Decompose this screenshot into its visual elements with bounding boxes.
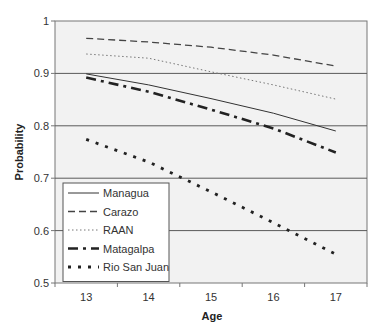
y-tick-label: 0.6 (34, 225, 49, 237)
y-axis-title: Probability (13, 123, 25, 181)
legend-label: RAAN (103, 224, 134, 236)
y-tick-label: 0.5 (34, 277, 49, 289)
x-tick-label: 16 (267, 291, 279, 303)
legend: ManaguaCarazoRAANMatagalpaRio San Juan (63, 183, 169, 282)
x-tick-label: 13 (80, 291, 92, 303)
chart: 0.50.60.70.80.91 1314151617 ManaguaCaraz… (0, 0, 384, 331)
legend-label: Rio San Juan (103, 261, 169, 273)
line-chart: 0.50.60.70.80.91 1314151617 ManaguaCaraz… (0, 0, 384, 331)
y-tick-label: 1 (43, 15, 49, 27)
x-axis-title: Age (202, 310, 223, 322)
y-tick-label: 0.7 (34, 172, 49, 184)
y-tick-label: 0.9 (34, 67, 49, 79)
x-tick-label: 14 (142, 291, 154, 303)
y-axis: 0.50.60.70.80.91 (34, 15, 55, 289)
x-axis: 1314151617 (55, 283, 367, 303)
legend-label: Carazo (103, 206, 138, 218)
x-tick-label: 15 (205, 291, 217, 303)
legend-label: Matagalpa (103, 243, 155, 255)
y-tick-label: 0.8 (34, 120, 49, 132)
legend-label: Managua (103, 187, 150, 199)
x-tick-label: 17 (330, 291, 342, 303)
